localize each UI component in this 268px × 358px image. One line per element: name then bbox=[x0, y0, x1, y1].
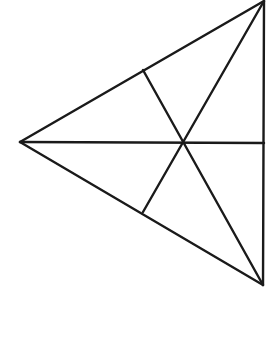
side-bottom-line bbox=[20, 142, 263, 285]
segments-group bbox=[20, 1, 264, 285]
triangle-cevians-figure bbox=[0, 0, 268, 358]
cevian-horizontal-line bbox=[20, 142, 264, 143]
side-top-line bbox=[20, 1, 264, 142]
cevian-bottom-right-to-top-foot-line bbox=[143, 70, 263, 285]
diagram-canvas bbox=[0, 0, 268, 358]
